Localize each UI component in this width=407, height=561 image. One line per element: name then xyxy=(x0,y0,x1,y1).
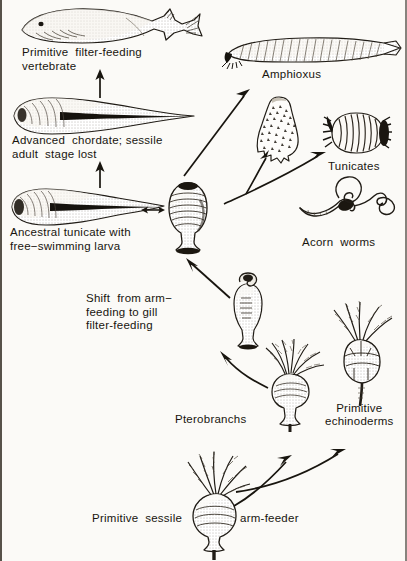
organism-primitive-echinoderm xyxy=(324,298,400,406)
organism-primitive-arm-feeder xyxy=(176,448,260,560)
label-primitive-vertebrate: Primitive filter-feeding vertebrate xyxy=(22,46,142,73)
label-shift-note: Shift from arm− feeding to gill filter-f… xyxy=(86,292,172,333)
figure-canvas: Primitive filter-feeding vertebrate Adva… xyxy=(0,0,407,561)
label-ancestral-tunicate: Ancestral tunicate with free−swimming la… xyxy=(10,226,131,253)
label-amphioxus: Amphioxus xyxy=(262,68,321,82)
arrow-tunicate-to-chordate xyxy=(90,160,110,188)
organism-acorn-worm xyxy=(294,174,404,230)
label-arm-feeder-left: Primitive sessile xyxy=(92,512,182,526)
label-pterobranchs: Pterobranchs xyxy=(175,413,246,427)
label-tunicates: Tunicates xyxy=(328,160,380,174)
organism-pterobranch-stalked xyxy=(256,336,328,432)
label-advanced-chordate: Advanced chordate; sessile adult stage l… xyxy=(12,134,163,161)
organism-adult-tunicate-stalked xyxy=(160,180,216,260)
organism-amphioxus xyxy=(218,32,403,72)
organism-primitive-vertebrate xyxy=(14,2,204,50)
organism-advanced-chordate xyxy=(8,94,198,136)
label-acorn-worms: Acorn worms xyxy=(302,236,375,250)
page-edge-left xyxy=(0,0,2,561)
label-primitive-echinoderms: Primitive echinoderms xyxy=(325,402,394,428)
bleed-through-text xyxy=(40,540,170,554)
label-arm-feeder-right: arm-feeder xyxy=(240,512,299,526)
